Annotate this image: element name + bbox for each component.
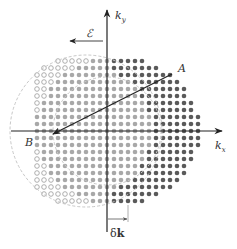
state-dot: [98, 199, 103, 204]
state-dot: [77, 73, 82, 78]
state-dot: [119, 136, 124, 141]
state-dot: [182, 164, 187, 169]
state-dot: [42, 115, 47, 120]
state-dot: [189, 101, 194, 106]
state-dot: [42, 101, 47, 106]
state-dot: [98, 115, 103, 120]
state-dot: [112, 87, 117, 92]
state-dot: [35, 108, 40, 113]
state-dot: [140, 122, 145, 127]
state-dot: [140, 178, 145, 183]
state-dot: [70, 199, 75, 204]
state-dot: [112, 178, 117, 183]
state-dot: [49, 164, 54, 169]
state-dot: [182, 143, 187, 148]
state-dot: [133, 171, 138, 176]
state-dot: [168, 101, 173, 106]
state-dot: [196, 136, 201, 141]
state-dot: [91, 171, 96, 176]
state-dot: [63, 66, 68, 71]
state-dot: [70, 80, 75, 85]
state-dot: [182, 115, 187, 120]
state-dot: [140, 66, 145, 71]
state-dot: [49, 66, 54, 71]
state-dot: [147, 73, 152, 78]
state-dot: [91, 66, 96, 71]
state-dot: [49, 115, 54, 120]
state-dot: [56, 136, 61, 141]
state-dot: [161, 87, 166, 92]
state-dot: [91, 199, 96, 204]
state-dot: [70, 136, 75, 141]
state-dot: [77, 199, 82, 204]
state-dot: [147, 108, 152, 113]
state-dot: [42, 150, 47, 155]
state-dot: [154, 171, 159, 176]
state-dot: [84, 143, 89, 148]
state-dot: [133, 136, 138, 141]
state-dot: [77, 115, 82, 120]
state-dot: [112, 80, 117, 85]
state-dot: [91, 136, 96, 141]
state-dot: [182, 108, 187, 113]
state-dot: [84, 157, 89, 162]
fermi-circle-diagram: [0, 0, 237, 249]
state-dot: [56, 185, 61, 190]
state-dot: [77, 94, 82, 99]
state-dot: [196, 122, 201, 127]
state-dot: [154, 192, 159, 197]
state-dot: [119, 66, 124, 71]
state-dot: [112, 185, 117, 190]
state-dot: [98, 66, 103, 71]
state-dot: [77, 185, 82, 190]
state-dot: [98, 164, 103, 169]
state-dot: [70, 59, 75, 64]
state-dot: [63, 178, 68, 183]
state-dot: [84, 185, 89, 190]
state-dot: [35, 157, 40, 162]
state-dot: [189, 136, 194, 141]
state-dot: [56, 192, 61, 197]
state-dot: [42, 185, 47, 190]
state-dot: [91, 150, 96, 155]
state-dot: [49, 192, 54, 197]
state-dot: [119, 122, 124, 127]
state-dot: [91, 115, 96, 120]
state-dot: [154, 122, 159, 127]
state-dot: [70, 178, 75, 183]
state-dot: [119, 73, 124, 78]
state-dot: [49, 171, 54, 176]
state-dot: [140, 80, 145, 85]
state-dot: [175, 101, 180, 106]
state-dot: [175, 136, 180, 141]
ky-label-base: k: [115, 9, 122, 22]
state-dot: [126, 122, 131, 127]
state-dot: [63, 185, 68, 190]
state-dot: [91, 101, 96, 106]
state-dot: [84, 192, 89, 197]
state-dot: [70, 192, 75, 197]
state-dot: [98, 192, 103, 197]
state-dot: [98, 80, 103, 85]
state-dot: [56, 94, 61, 99]
state-dot: [168, 80, 173, 85]
state-dot: [98, 101, 103, 106]
state-dot: [161, 94, 166, 99]
state-dot: [70, 101, 75, 106]
state-dot: [126, 136, 131, 141]
state-dot: [126, 185, 131, 190]
state-dot: [70, 108, 75, 113]
state-dot: [91, 192, 96, 197]
state-dot: [175, 108, 180, 113]
state-dot: [140, 164, 145, 169]
state-dot: [175, 150, 180, 155]
state-dot: [112, 66, 117, 71]
state-dot: [84, 94, 89, 99]
state-dot: [161, 115, 166, 120]
state-dot: [42, 136, 47, 141]
state-dot: [70, 115, 75, 120]
state-dot: [119, 94, 124, 99]
state-dot: [84, 164, 89, 169]
state-dot: [140, 150, 145, 155]
state-dot: [175, 157, 180, 162]
